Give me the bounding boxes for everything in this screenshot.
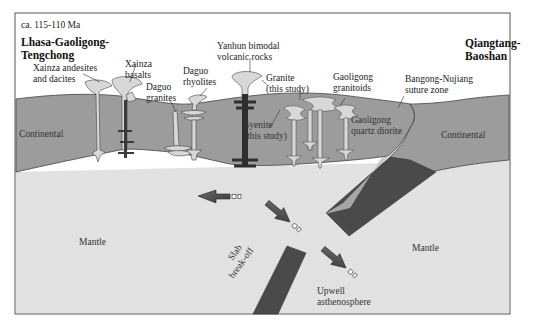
label-granite-1: Granite bbox=[266, 73, 295, 84]
label-daguo-granites-2: granites bbox=[146, 93, 176, 104]
label-gaoligong-quartz-diorite-2: quartz diorite bbox=[351, 126, 402, 137]
label-yanhun-2: volcanic rocks bbox=[217, 52, 272, 63]
label-yanhun-1: Yanhun bimodal bbox=[217, 41, 280, 52]
label-continental-left: Continental bbox=[19, 129, 63, 140]
label-suture-1: Bangong-Nujiang bbox=[405, 74, 473, 85]
label-upwell-2: asthenosphere bbox=[317, 297, 371, 308]
label-daguo-rhyolites-2: rhyolites bbox=[183, 77, 216, 88]
label-continental-right: Continental bbox=[441, 130, 485, 141]
age-label: ca. 115-110 Ma bbox=[21, 20, 80, 31]
label-gaoligong-quartz-diorite-1: Gaoligong bbox=[351, 115, 391, 126]
label-gaoligong-granitoids-2: granitoids bbox=[333, 83, 371, 94]
terrane-left-line2: Tengchong bbox=[21, 49, 74, 62]
terrane-left-line1: Lhasa-Gaoligong- bbox=[21, 36, 109, 49]
label-xainza-basalts-1: Xainza bbox=[125, 59, 152, 70]
label-granite-2: (this study) bbox=[266, 84, 309, 95]
label-xainza-andesites-2: and dacites bbox=[33, 74, 75, 85]
terrane-right-line2: Baoshan bbox=[465, 50, 507, 63]
label-daguo-granites-1: Daguo bbox=[146, 82, 171, 93]
label-syenite-2: (this study) bbox=[244, 131, 287, 142]
label-upwell-1: Upwell bbox=[317, 286, 345, 297]
terrane-right-line1: Qiangtang- bbox=[465, 37, 521, 50]
label-xainza-basalts-2: basalts bbox=[125, 70, 151, 81]
label-gaoligong-granitoids-1: Gaoligong bbox=[333, 72, 373, 83]
label-mantle-left: Mantle bbox=[79, 237, 106, 248]
label-suture-2: suture zone bbox=[405, 85, 449, 96]
label-syenite-1: Syenite bbox=[244, 120, 273, 131]
label-mantle-right: Mantle bbox=[412, 243, 439, 254]
label-xainza-andesites-1: Xainza andesites bbox=[33, 63, 97, 74]
label-daguo-rhyolites-1: Daguo bbox=[183, 66, 208, 77]
